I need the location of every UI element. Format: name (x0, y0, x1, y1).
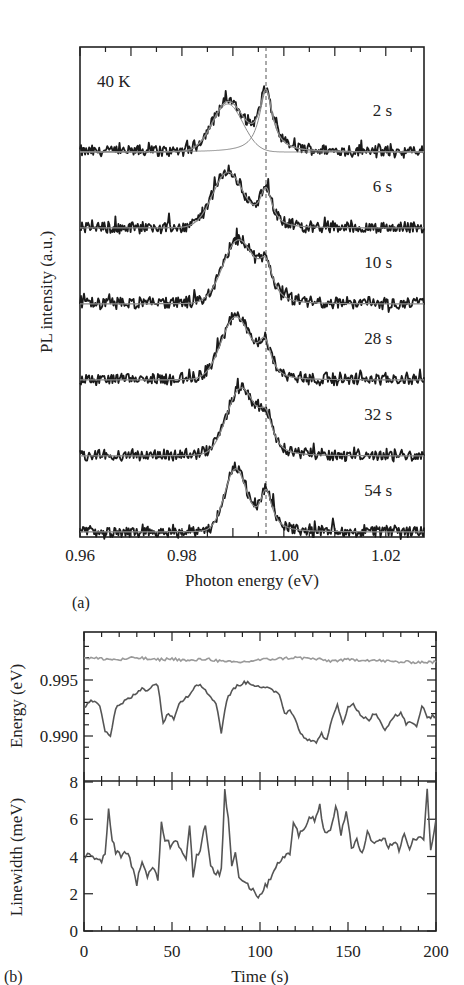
spectra-traces (80, 86, 424, 539)
trace-label: 32 s (364, 405, 392, 424)
trace-label: 28 s (364, 329, 392, 348)
xtick-label: 150 (335, 942, 361, 961)
ytick-label: 4 (70, 848, 79, 867)
xtick-label: 200 (423, 942, 449, 961)
panel-b-label: (b) (4, 968, 23, 985)
xtick-label: 0 (80, 942, 89, 961)
ytick-label: 0 (70, 922, 79, 941)
panel-b-timeseries: 0501001502000.9950.99002468 Time (s) Ene… (4, 632, 449, 985)
ytick-label: 0.990 (40, 727, 78, 746)
ytick-label: 0.995 (40, 671, 78, 690)
spectrum-fit-2s (80, 89, 424, 152)
spectrum-data-54s (80, 463, 424, 540)
ytick-label: 6 (70, 810, 79, 829)
trace-label: 54 s (364, 481, 392, 500)
temperature-label: 40 K (97, 72, 131, 91)
panel-a-spectra: 40 K 2 s6 s10 s28 s32 s54 s 0.960.981.00… (37, 47, 424, 612)
xtick-label: 1.00 (269, 546, 299, 565)
energy-ylabel: Energy (eV) (7, 664, 26, 748)
spectrum-data-2s (80, 86, 424, 158)
xtick-label: 0.98 (167, 546, 197, 565)
panel-b-ticks (84, 632, 436, 931)
xtick-label: 1.02 (371, 546, 401, 565)
panel-a-xlabel: Photon energy (eV) (185, 571, 319, 590)
spectrum-data-6s (80, 165, 424, 233)
panel-a-frame (80, 47, 424, 537)
linewidth-series (84, 789, 436, 898)
spectrum-data-28s (80, 312, 424, 385)
low-energy-series (84, 681, 436, 743)
ytick-label: 8 (70, 773, 79, 792)
ytick-label: 2 (70, 885, 79, 904)
panel-a-xtick-labels: 0.960.981.001.02 (65, 546, 401, 565)
panel-b-xlabel: Time (s) (231, 967, 288, 985)
figure: 40 K 2 s6 s10 s28 s32 s54 s 0.960.981.00… (0, 0, 464, 985)
xtick-label: 100 (247, 942, 273, 961)
spectrum-fit-28s (80, 317, 424, 380)
panel-a-ylabel: PL intensity (a.u.) (37, 231, 56, 353)
xtick-label: 50 (164, 942, 181, 961)
trace-label: 2 s (373, 101, 392, 120)
trace-label: 10 s (364, 253, 392, 272)
panel-a-label: (a) (72, 594, 90, 612)
spectrum-fit-54s (80, 469, 424, 532)
trace-label: 6 s (373, 177, 392, 196)
xtick-label: 0.96 (65, 546, 95, 565)
high-energy-series (84, 657, 436, 664)
linewidth-ylabel: Linewidth (meV) (7, 798, 26, 917)
